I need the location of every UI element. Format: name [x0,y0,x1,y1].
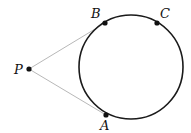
circle [79,15,183,119]
label-a: A [99,118,109,133]
point-a [103,112,108,117]
point-p [26,66,31,71]
label-c: C [160,6,170,21]
tangent-segment-pa [29,69,106,115]
tangent-diagram: P A B C [0,0,191,133]
point-c [154,20,159,25]
label-p: P [13,62,23,77]
point-b [102,20,107,25]
label-b: B [90,6,101,21]
